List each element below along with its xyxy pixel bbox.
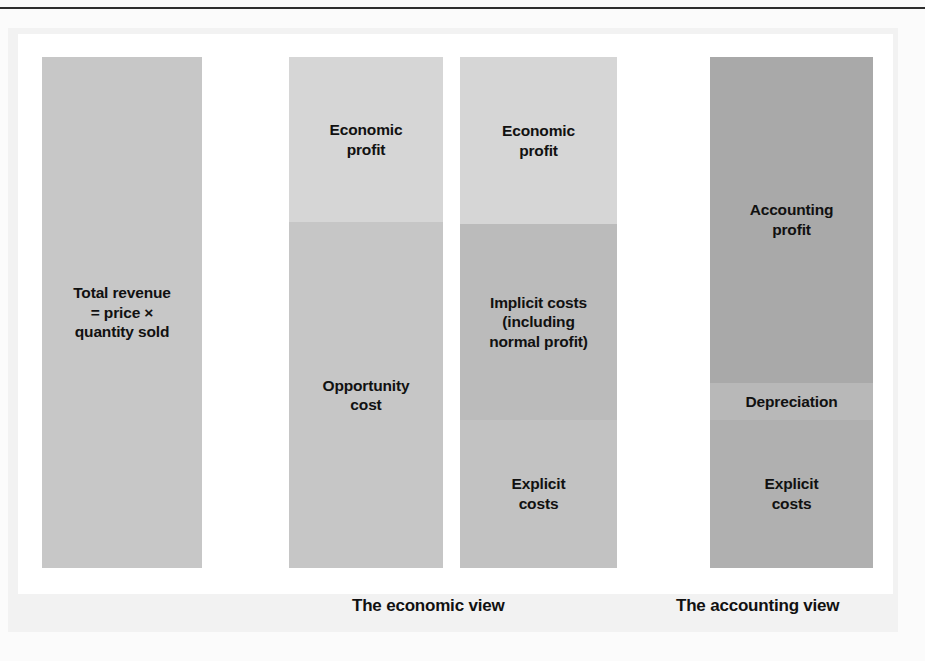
- segment-label: Depreciation: [741, 392, 841, 412]
- segment-label: Economic profit: [326, 120, 407, 159]
- top-horizontal-rule: [0, 7, 925, 9]
- figure-root: the same thingeconomic profit isthe diff…: [0, 0, 925, 661]
- segment-label: Explicit costs: [761, 474, 823, 513]
- segment-implicit-costs: Implicit costs (including normal profit): [460, 224, 617, 420]
- segment-label: Explicit costs: [508, 474, 570, 513]
- segment-label: Implicit costs (including normal profit): [485, 293, 592, 352]
- accounting-view-caption: The accounting view: [676, 596, 839, 616]
- bar-accounting-view: Accounting profitDepreciationExplicit co…: [710, 57, 873, 568]
- bar-total-revenue: Total revenue = price × quantity sold: [42, 57, 202, 568]
- segment-opportunity-cost: Opportunity cost: [289, 222, 443, 568]
- bar-economic-view-revenue-split: Economic profitOpportunity cost: [289, 57, 443, 568]
- segment-economic-profit: Economic profit: [460, 57, 617, 224]
- segment-total-revenue: Total revenue = price × quantity sold: [42, 57, 202, 568]
- segment-label: Accounting profit: [746, 200, 838, 239]
- economic-view-caption: The economic view: [352, 596, 504, 616]
- bar-economic-view-cost-split: Economic profitImplicit costs (including…: [460, 57, 617, 568]
- segment-economic-profit: Economic profit: [289, 57, 443, 222]
- segment-explicit-costs: Explicit costs: [460, 420, 617, 568]
- segment-depreciation: Depreciation: [710, 383, 873, 420]
- segment-label: Total revenue = price × quantity sold: [69, 283, 175, 342]
- segment-explicit-costs: Explicit costs: [710, 420, 873, 568]
- segment-label: Economic profit: [498, 121, 579, 160]
- segment-label: Opportunity cost: [318, 376, 413, 415]
- segment-accounting-profit: Accounting profit: [710, 57, 873, 383]
